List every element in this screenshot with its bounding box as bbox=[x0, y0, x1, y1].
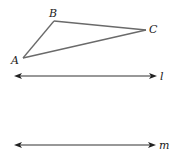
vertex-label-a: A bbox=[10, 54, 19, 67]
line-m bbox=[14, 142, 156, 148]
triangle-abc bbox=[23, 21, 146, 58]
line-label-m: m bbox=[159, 139, 169, 152]
segment-bc bbox=[54, 21, 146, 30]
line-l bbox=[14, 73, 157, 79]
line-label-l: l bbox=[160, 70, 164, 83]
vertex-label-c: C bbox=[149, 23, 158, 36]
segment-ac bbox=[23, 30, 146, 58]
geometry-diagram: A B C l m bbox=[0, 0, 175, 152]
vertex-label-b: B bbox=[48, 7, 57, 20]
